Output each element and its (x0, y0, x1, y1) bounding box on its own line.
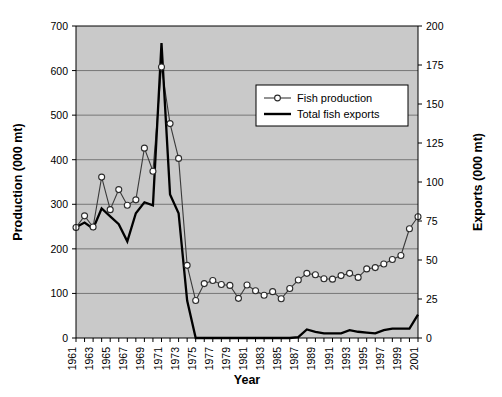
x-tick-label-1991: 1991 (323, 347, 335, 371)
y-right-tick-label-50: 50 (426, 254, 438, 266)
data-point-production-1971 (159, 64, 165, 70)
y-right-tick-label-75: 75 (426, 215, 438, 227)
x-tick-label-1981: 1981 (237, 347, 249, 371)
chart-container: 0100200300400500600700 02550751001251501… (0, 0, 502, 397)
data-point-production-1973 (176, 155, 182, 161)
x-tick-label-1995: 1995 (357, 347, 369, 371)
data-point-production-1982 (253, 288, 259, 294)
data-point-production-1962 (82, 213, 88, 219)
legend: Fish production Total fish exports (256, 85, 408, 126)
x-tick-label-1987: 1987 (288, 347, 300, 371)
x-tick-label-2001: 2001 (408, 347, 420, 371)
data-point-production-1986 (287, 286, 293, 292)
x-tick-label-1971: 1971 (152, 347, 164, 371)
data-point-production-1994 (355, 274, 361, 280)
x-tick-label-1997: 1997 (374, 347, 386, 371)
plot-area-background (76, 26, 418, 338)
data-point-production-1984 (270, 289, 276, 295)
data-point-production-1974 (184, 262, 190, 268)
data-point-production-1967 (124, 202, 130, 208)
data-point-production-1975 (193, 298, 199, 304)
data-point-production-1988 (304, 270, 310, 276)
data-point-production-1969 (141, 145, 147, 151)
data-point-production-1991 (330, 276, 336, 282)
y-right-tick-label-200: 200 (426, 20, 444, 32)
y-right-tick-label-0: 0 (426, 332, 432, 344)
y-left-tick-label-600: 600 (50, 65, 68, 77)
data-point-production-1992 (338, 273, 344, 279)
x-tick-label-1965: 1965 (100, 347, 112, 371)
data-point-production-1965 (107, 207, 113, 213)
data-point-production-1985 (278, 296, 284, 302)
data-point-production-1996 (372, 265, 378, 271)
x-tick-label-1977: 1977 (203, 347, 215, 371)
y-right-tick-label-125: 125 (426, 137, 444, 149)
data-point-production-1979 (227, 282, 233, 288)
x-tick-label-1999: 1999 (391, 347, 403, 371)
x-tick-label-1985: 1985 (271, 347, 283, 371)
data-point-production-1993 (347, 270, 353, 276)
data-point-production-2000 (406, 226, 412, 232)
x-tick-label-1967: 1967 (117, 347, 129, 371)
data-point-production-1999 (398, 253, 404, 259)
y-axis-left-title: Production (000 mt) (11, 123, 25, 240)
data-point-production-1997 (381, 261, 387, 267)
data-point-production-1963 (90, 224, 96, 230)
x-tick-label-1975: 1975 (186, 347, 198, 371)
y-left-tick-label-200: 200 (50, 243, 68, 255)
data-point-production-1990 (321, 276, 327, 282)
y-axis-right-title: Exports (000 mt) (471, 133, 485, 231)
legend-label-fish-production: Fish production (297, 92, 372, 104)
y-left-tick-label-300: 300 (50, 198, 68, 210)
data-point-production-1970 (150, 168, 156, 174)
x-axis-labels: 1961196319651967196919711973197519771979… (66, 347, 420, 371)
data-point-production-1964 (99, 174, 105, 180)
y-left-tick-label-100: 100 (50, 287, 68, 299)
x-tick-label-1989: 1989 (305, 347, 317, 371)
data-point-production-1989 (312, 272, 318, 278)
x-tick-label-1993: 1993 (340, 347, 352, 371)
data-point-production-1998 (389, 257, 395, 263)
x-axis-title: Year (234, 373, 261, 387)
data-point-production-1981 (244, 282, 250, 288)
x-tick-label-1983: 1983 (254, 347, 266, 371)
data-point-production-1978 (218, 282, 224, 288)
y-left-tick-label-700: 700 (50, 20, 68, 32)
data-point-production-1995 (364, 266, 370, 272)
x-tick-label-1979: 1979 (220, 347, 232, 371)
y-left-tick-label-0: 0 (62, 332, 68, 344)
y-left-tick-label-500: 500 (50, 109, 68, 121)
y-left-tick-label-400: 400 (50, 154, 68, 166)
legend-swatch-marker-production (275, 95, 281, 101)
data-point-production-1966 (116, 187, 122, 193)
y-right-tick-label-100: 100 (426, 176, 444, 188)
y-right-tick-label-25: 25 (426, 293, 438, 305)
legend-label-total-fish-exports: Total fish exports (297, 108, 380, 120)
data-point-production-1977 (210, 278, 216, 284)
data-point-production-1987 (295, 277, 301, 283)
data-point-production-1980 (235, 295, 241, 301)
fish-production-exports-chart: 0100200300400500600700 02550751001251501… (0, 0, 502, 397)
x-tick-label-1963: 1963 (83, 347, 95, 371)
y-right-tick-label-175: 175 (426, 59, 444, 71)
data-point-production-1976 (201, 281, 207, 287)
x-tick-label-1973: 1973 (169, 347, 181, 371)
x-tick-label-1969: 1969 (134, 347, 146, 371)
x-tick-label-1961: 1961 (66, 347, 78, 371)
data-point-production-1972 (167, 121, 173, 127)
data-point-production-1968 (133, 197, 139, 203)
y-right-tick-label-150: 150 (426, 98, 444, 110)
data-point-production-1983 (261, 292, 267, 298)
